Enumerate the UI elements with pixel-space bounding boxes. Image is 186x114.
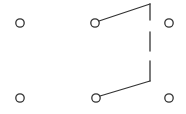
terminal-right-top	[165, 19, 173, 27]
terminal-mid-bottom	[92, 94, 100, 102]
switch-blade-bottom	[100, 81, 150, 96]
terminal-right-bottom	[165, 94, 173, 102]
switch-blade-top	[99, 4, 150, 21]
terminal-left-bottom	[16, 94, 24, 102]
terminal-mid-top	[91, 19, 99, 27]
switch-diagram	[0, 0, 186, 114]
terminal-left-top	[16, 19, 24, 27]
